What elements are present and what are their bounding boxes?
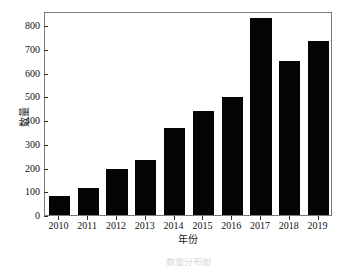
bar [279, 61, 300, 215]
y-tick-label: 400 [14, 116, 40, 126]
bar [193, 111, 214, 215]
y-tick-mark [44, 74, 48, 75]
y-tick-label: 600 [14, 69, 40, 79]
plot-area [44, 12, 332, 216]
y-tick-mark [44, 169, 48, 170]
bar [250, 18, 271, 215]
x-tick-label: 2013 [135, 220, 155, 232]
figure-caption: 数量分布图 [44, 258, 332, 266]
y-tick-label: 300 [14, 140, 40, 150]
y-tick-mark [44, 192, 48, 193]
y-axis-tick-labels: 0100200300400500600700800 [14, 8, 40, 224]
x-tick-label: 2017 [250, 220, 270, 232]
y-tick-mark [44, 50, 48, 51]
bar [135, 160, 156, 215]
bar [222, 97, 243, 215]
y-tick-label: 800 [14, 21, 40, 31]
bars-container [45, 13, 331, 215]
y-tick-mark [44, 216, 48, 217]
x-tick-label: 2018 [279, 220, 299, 232]
x-tick-label: 2011 [77, 220, 97, 232]
y-tick-mark [44, 26, 48, 27]
bar [78, 188, 99, 215]
x-tick-label: 2012 [106, 220, 126, 232]
x-tick-label: 2014 [164, 220, 184, 232]
x-tick-label: 2010 [48, 220, 68, 232]
y-tick-label: 200 [14, 164, 40, 174]
y-tick-mark [44, 97, 48, 98]
x-tick-label: 2019 [308, 220, 328, 232]
x-axis-title: 年份 [44, 234, 332, 246]
y-tick-mark [44, 121, 48, 122]
x-axis-tick-labels: 2010201120122013201420152016201720182019 [44, 216, 332, 234]
y-tick-label: 500 [14, 92, 40, 102]
bar [308, 41, 329, 215]
y-tick-mark [44, 145, 48, 146]
bar [49, 196, 70, 215]
x-tick-label: 2015 [192, 220, 212, 232]
y-tick-label: 100 [14, 187, 40, 197]
y-tick-label: 0 [14, 211, 40, 221]
bar [164, 128, 185, 215]
x-tick-label: 2016 [221, 220, 241, 232]
bar-chart-figure: 数量 0100200300400500600700800 20102011201… [0, 0, 343, 266]
y-tick-label: 700 [14, 45, 40, 55]
bar [106, 169, 127, 215]
